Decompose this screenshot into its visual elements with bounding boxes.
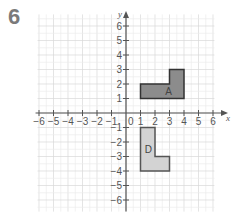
y-axis-label: y (117, 9, 122, 19)
x-tick-label: 3 (167, 116, 173, 127)
x-tick-label: −4 (62, 116, 74, 127)
x-tick-label: 5 (196, 116, 202, 127)
y-tick-label: −2 (111, 137, 123, 148)
y-tick-label: −5 (111, 180, 123, 191)
x-tick-label: 0 (128, 116, 134, 127)
y-tick-label: 2 (116, 79, 122, 90)
axes: xy−6−5−4−3−2−10123456654321−1−2−3−4−5−6 (33, 9, 230, 212)
y-tick-label: −1 (111, 122, 123, 133)
y-tick-label: 1 (116, 93, 122, 104)
y-tick-label: −6 (111, 195, 123, 206)
y-tick-label: 6 (116, 21, 122, 32)
x-tick-label: 2 (152, 116, 158, 127)
shape-label-a: A (165, 86, 172, 97)
x-axis-label: x (225, 113, 230, 123)
y-tick-label: 5 (116, 35, 122, 46)
x-tick-label: −6 (33, 116, 45, 127)
y-axis-arrow-icon (123, 11, 129, 18)
y-tick-label: 4 (116, 50, 122, 61)
x-tick-label: −2 (91, 116, 103, 127)
x-tick-label: 1 (138, 116, 144, 127)
x-tick-label: 4 (181, 116, 187, 127)
y-tick-label: −4 (111, 166, 123, 177)
x-tick-label: 6 (210, 116, 216, 127)
x-tick-label: −5 (48, 116, 60, 127)
x-tick-label: −3 (77, 116, 89, 127)
shape-label-d: D (145, 144, 152, 155)
y-tick-label: −3 (111, 151, 123, 162)
coordinate-grid: ADxy−6−5−4−3−2−10123456654321−1−2−3−4−5−… (0, 0, 239, 221)
y-tick-label: 3 (116, 64, 122, 75)
